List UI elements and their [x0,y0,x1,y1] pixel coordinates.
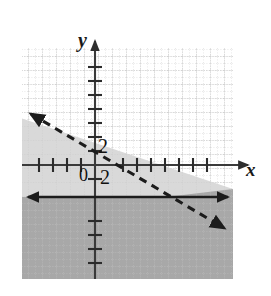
y-tick-label-2: 2 [98,136,108,156]
origin-label: 0 [79,166,88,184]
graph-figure: y x 0 2 2 [0,0,271,296]
x-axis-label: x [246,160,256,179]
x-tick-label-2: 2 [100,167,110,187]
y-axis-label: y [78,30,87,50]
coordinate-plane [0,0,271,296]
